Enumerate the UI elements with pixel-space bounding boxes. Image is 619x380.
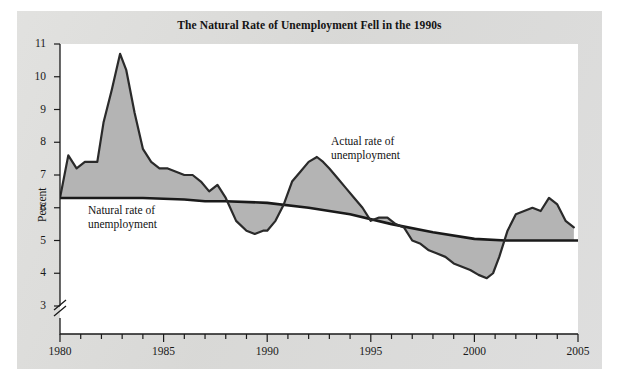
y-tick-label: 11 — [24, 37, 46, 49]
y-tick-label: 9 — [24, 103, 46, 115]
x-tick-label: 1980 — [38, 345, 82, 357]
annotation-actual-rate: Actual rate of unemployment — [331, 135, 400, 162]
y-tick-label: 6 — [24, 201, 46, 213]
x-tick-label: 1990 — [245, 345, 289, 357]
x-tick-label: 1985 — [142, 345, 186, 357]
chart-canvas — [0, 0, 619, 380]
y-tick-label: 3 — [24, 299, 46, 311]
series-group — [60, 54, 578, 278]
y-tick-label: 7 — [24, 168, 46, 180]
y-tick-label: 4 — [24, 266, 46, 278]
x-tick-label: 1995 — [349, 345, 393, 357]
y-tick-label: 10 — [24, 70, 46, 82]
y-tick-label: 5 — [24, 234, 46, 246]
axis-lower-and-x-axis — [60, 318, 578, 334]
y-tick-marks — [54, 44, 60, 306]
gap-shaded-area — [60, 54, 574, 278]
x-tick-label: 2000 — [452, 345, 496, 357]
x-tick-label: 2005 — [556, 345, 600, 357]
annotation-natural-rate: Natural rate of unemployment — [88, 204, 157, 231]
y-tick-label: 8 — [24, 135, 46, 147]
figure-container: The Natural Rate of Unemployment Fell in… — [0, 0, 619, 380]
x-tick-marks — [60, 334, 578, 342]
